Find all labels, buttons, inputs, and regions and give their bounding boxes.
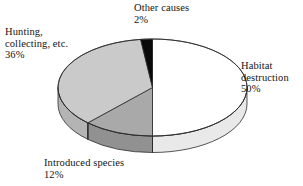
- slice-label-habitat-destruction-text-line1: Habitat: [241, 60, 289, 72]
- slice-label-habitat-destruction-text-line2: destruction: [241, 72, 289, 84]
- pie-slices-group: [58, 39, 247, 153]
- slice-label-introduced-species-text: Introduced species: [44, 157, 124, 169]
- slice-label-habitat-destruction-percent: 50%: [241, 83, 289, 95]
- slice-label-hunting-text-line2: collecting, etc.: [5, 38, 68, 50]
- slice-label-hunting-text-line1: Hunting,: [5, 26, 68, 38]
- slice-label-habitat-destruction: Habitat destruction 50%: [241, 60, 289, 95]
- slice-label-introduced-species-percent: 12%: [44, 169, 124, 181]
- slice-label-other-causes-text: Other causes: [134, 2, 189, 14]
- pie-chart: Other causes 2% Hunting, collecting, etc…: [0, 0, 303, 186]
- slice-label-introduced-species: Introduced species 12%: [44, 157, 124, 180]
- slice-label-other-causes: Other causes 2%: [134, 2, 189, 25]
- slice-label-other-causes-percent: 2%: [134, 14, 189, 26]
- slice-label-hunting-percent: 36%: [5, 49, 68, 61]
- slice-label-hunting: Hunting, collecting, etc. 36%: [5, 26, 68, 61]
